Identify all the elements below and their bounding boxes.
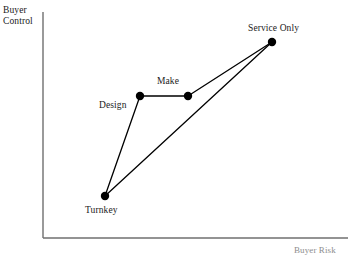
data-point-service-only (268, 38, 276, 46)
connector-turnkey-to-service-only (105, 42, 272, 196)
x-axis-title: Buyer Risk (294, 245, 336, 256)
point-label-service-only: Service Only (248, 23, 299, 34)
connector-make-to-service-only (188, 42, 272, 96)
data-point-design (136, 92, 144, 100)
connector-lines (105, 42, 272, 196)
data-point-turnkey (101, 192, 109, 200)
point-label-turnkey: Turnkey (85, 205, 118, 216)
connector-turnkey-to-design (105, 96, 140, 196)
data-point-make (184, 92, 192, 100)
point-label-design: Design (99, 100, 127, 111)
point-label-make: Make (157, 76, 179, 87)
y-axis-title: Buyer Control (3, 5, 33, 27)
